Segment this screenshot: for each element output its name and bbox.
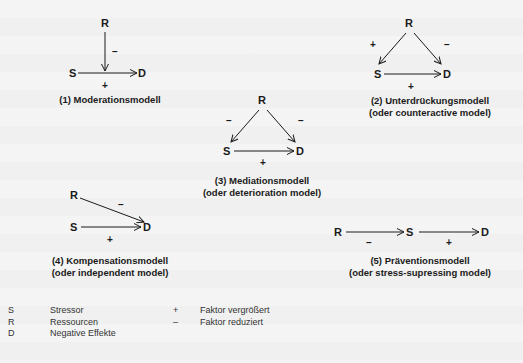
model-subtitle: (oder deterioration model)	[182, 187, 342, 199]
caption-model-5: (5) Präventionsmodell (oder stress-supre…	[330, 255, 510, 279]
arrow-r-to-d	[414, 33, 441, 64]
sign-minus: –	[298, 115, 304, 126]
legend-row: D Negative Effekte	[8, 328, 270, 340]
node-r: R	[258, 94, 266, 106]
sign-plus: +	[408, 81, 414, 92]
sign-plus: +	[102, 80, 108, 91]
node-d: D	[143, 221, 151, 233]
node-s: S	[70, 221, 77, 233]
legend: S Stressor + Faktor vergrößert R Ressour…	[8, 305, 270, 340]
model-2-suppression: R + – S D +	[370, 17, 451, 92]
model-title: (3) Mediationsmodell	[182, 175, 342, 187]
node-s: S	[374, 68, 381, 80]
model-5-prevention: R – S D +	[334, 226, 489, 248]
arrow-r-to-s	[231, 110, 259, 142]
sign-plus: +	[107, 234, 113, 245]
node-r: R	[334, 226, 342, 238]
arrow-r-to-d	[80, 198, 144, 222]
model-title: (1) Moderationsmodell	[55, 94, 165, 106]
caption-model-4: (4) Kompensationsmodell (oder independen…	[40, 255, 180, 279]
legend-label: Ressourcen	[50, 317, 173, 329]
caption-model-3: (3) Mediationsmodell (oder deterioration…	[182, 175, 342, 199]
model-subtitle: (oder independent model)	[40, 267, 180, 279]
model-1-moderation: R – S D +	[69, 17, 146, 91]
node-d: D	[296, 145, 304, 157]
sign-plus: +	[446, 237, 452, 248]
caption-model-1: (1) Moderationsmodell	[55, 94, 165, 106]
model-title: (5) Präventionsmodell	[330, 255, 510, 267]
model-4-compensation: R – S D +	[70, 189, 151, 245]
legend-row: R Ressourcen – Faktor reduziert	[8, 317, 270, 329]
model-title: (2) Unterdrückungsmodell	[350, 95, 510, 107]
node-r: R	[101, 17, 109, 29]
node-d: D	[138, 67, 146, 79]
node-r: R	[405, 17, 413, 29]
legend-sign: –	[173, 317, 200, 329]
node-s: S	[406, 226, 413, 238]
node-d: D	[481, 226, 489, 238]
caption-model-2: (2) Unterdrückungsmodell (oder counterac…	[350, 95, 510, 119]
sign-minus: –	[112, 46, 118, 57]
model-title: (4) Kompensationsmodell	[40, 255, 180, 267]
sign-minus: –	[118, 199, 124, 210]
legend-key: R	[8, 317, 50, 329]
legend-key: S	[8, 305, 50, 317]
model-3-mediation: R – – S D +	[223, 94, 304, 168]
legend-sign: +	[173, 305, 200, 317]
model-subtitle: (oder stress-supressing model)	[330, 267, 510, 279]
sign-plus: +	[260, 157, 266, 168]
sign-minus: –	[366, 237, 372, 248]
legend-key: D	[8, 328, 50, 340]
legend-sign-label: Faktor vergrößert	[200, 305, 270, 317]
node-s: S	[223, 145, 230, 157]
arrow-r-to-s	[379, 33, 406, 64]
sign-plus: +	[370, 39, 376, 50]
node-r: R	[70, 189, 78, 201]
node-s: S	[69, 67, 76, 79]
model-subtitle: (oder counteractive model)	[350, 107, 510, 119]
legend-label: Stressor	[50, 305, 173, 317]
legend-label: Negative Effekte	[50, 328, 173, 340]
legend-sign-label: Faktor reduziert	[200, 317, 263, 329]
arrow-r-to-d	[267, 110, 295, 142]
node-d: D	[443, 68, 451, 80]
sign-minus: –	[444, 39, 450, 50]
sign-minus: –	[226, 115, 232, 126]
legend-row: S Stressor + Faktor vergrößert	[8, 305, 270, 317]
